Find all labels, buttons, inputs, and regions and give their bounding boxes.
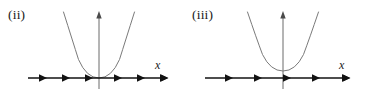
x-axis-label-ii: x: [154, 58, 161, 72]
phase-arrowhead-1-ii: [39, 74, 47, 82]
figure-root: (ii) x: [0, 0, 365, 105]
phase-line-iii: [205, 74, 351, 82]
panel-iii: (iii) x: [183, 0, 365, 105]
panel-ii: (ii) x: [0, 0, 182, 105]
phase-arrowhead-4-ii: [114, 74, 122, 82]
phase-arrowhead-2-iii: [254, 74, 262, 82]
phase-diagram-iii: x: [183, 0, 365, 105]
phase-arrowhead-1-iii: [225, 74, 233, 82]
phase-arrowhead-2-ii: [62, 74, 70, 82]
phase-arrowhead-6-ii: [160, 74, 168, 82]
phase-arrowhead-4-iii: [312, 74, 320, 82]
phase-arrowhead-5-iii: [342, 74, 350, 82]
phase-diagram-ii: x: [0, 0, 182, 105]
x-axis-label-iii: x: [338, 58, 345, 72]
phase-arrowhead-3-iii: [283, 74, 291, 82]
phase-line-ii: [28, 74, 169, 82]
phase-arrowhead-5-ii: [137, 74, 145, 82]
phase-arrowhead-3-ii: [85, 74, 93, 82]
